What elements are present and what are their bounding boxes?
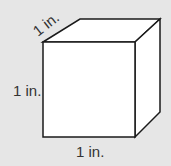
cube-diagram: 1 in. 1 in. 1 in. <box>0 0 171 166</box>
cube-front-face <box>43 42 135 137</box>
width-label: 1 in. <box>76 143 104 160</box>
height-label: 1 in. <box>13 82 41 99</box>
